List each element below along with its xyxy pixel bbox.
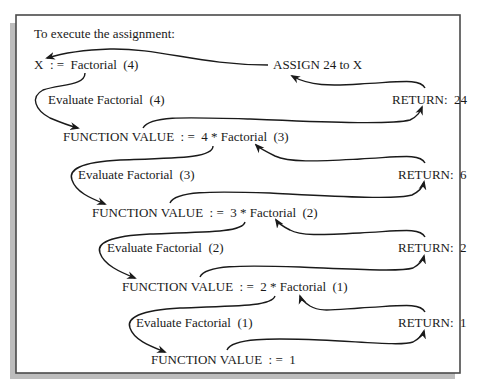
return-label-4: RETURN: 1 bbox=[398, 315, 467, 330]
diagram-title: To execute the assignment: bbox=[34, 26, 175, 41]
function-value-4: FUNCTION VALUE : = 1 bbox=[151, 352, 296, 367]
evaluate-label-4: Evaluate Factorial (1) bbox=[136, 315, 253, 330]
evaluate-label-3: Evaluate Factorial (2) bbox=[107, 240, 224, 255]
return-label-3: RETURN: 2 bbox=[398, 240, 467, 255]
evaluate-label-2: Evaluate Factorial (3) bbox=[78, 167, 195, 182]
return-label-1: RETURN: 24 bbox=[392, 92, 468, 107]
function-value-3: FUNCTION VALUE : = 2 * Factorial (1) bbox=[122, 279, 348, 294]
assignment-statement: X : = Factorial (4) bbox=[34, 57, 138, 72]
assign-result-label: ASSIGN 24 to X bbox=[273, 57, 363, 72]
diagram-canvas: To execute the assignment: X : = Factori… bbox=[0, 0, 490, 390]
function-value-1: FUNCTION VALUE : = 4 * Factorial (3) bbox=[63, 129, 289, 144]
evaluate-label-1: Evaluate Factorial (4) bbox=[48, 92, 165, 107]
return-label-2: RETURN: 6 bbox=[398, 167, 467, 182]
frame-shadow-left bbox=[10, 23, 16, 379]
frame-shadow-bottom bbox=[10, 373, 455, 379]
function-value-2: FUNCTION VALUE : = 3 * Factorial (2) bbox=[92, 205, 318, 220]
recursion-trace-diagram: To execute the assignment: X : = Factori… bbox=[0, 0, 490, 390]
